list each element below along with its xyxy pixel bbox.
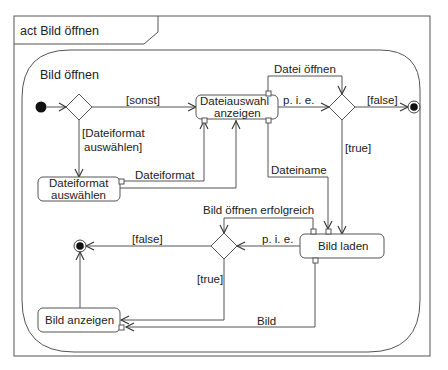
final-node-2-inner — [76, 242, 84, 250]
object-label-dateiformat: Dateiformat — [135, 169, 195, 181]
initial-node — [36, 102, 47, 113]
guard-true-2: [true] — [197, 273, 223, 285]
label-dateiname: Dateiname — [271, 164, 327, 176]
edge-datei-oeffnen — [268, 76, 342, 94]
input-pin-bild — [119, 325, 124, 330]
edge-true-2 — [121, 259, 224, 320]
output-pin-dateiformat — [119, 179, 124, 184]
label-pie-1: p. i. e. — [283, 94, 314, 106]
input-pin-dateiname — [326, 229, 331, 234]
decision-node-3 — [211, 233, 237, 259]
action-dateiformat-line1: Dateiformat — [49, 177, 109, 189]
guard-dateiformat-line2: auswählen] — [84, 141, 142, 153]
guard-false-1: [false] — [367, 94, 398, 106]
label-datei-oeffnen: Datei öffnen — [274, 63, 336, 75]
frame-title: act Bild öffnen — [20, 24, 99, 38]
guard-true-1: [true] — [345, 142, 371, 154]
decision-node-1 — [66, 94, 92, 120]
decision-node-2 — [329, 94, 355, 120]
label-bild-oeffnen-erfolgreich: Bild öffnen erfolgreich — [203, 204, 314, 216]
action-dateiformat-line2: auswählen — [51, 189, 106, 201]
activity-diagram: act Bild öffnen Bild öffnen [sonst] [Dat… — [0, 0, 448, 370]
activity-name: Bild öffnen — [40, 68, 99, 82]
output-pin-bild — [313, 258, 318, 263]
output-pin-dateiname — [266, 118, 271, 123]
output-pin-erfolgreich — [311, 229, 316, 234]
final-node-1-inner — [410, 103, 418, 111]
guard-false-2: [false] — [132, 233, 163, 245]
output-pin-datei-oeffnen — [266, 91, 271, 96]
action-dateiauswahl-line1: Dateiauswahl — [200, 95, 269, 107]
edge-bild-oeffnen-erfolgreich — [224, 218, 313, 233]
guard-dateiformat-line1: [Dateiformat — [82, 127, 145, 139]
label-pie-2: p. i. e. — [262, 233, 293, 245]
input-pin-dateiauswahl-1 — [202, 118, 207, 123]
action-bild-laden-label: Bild laden — [318, 240, 369, 252]
action-dateiauswahl-line2: anzeigen — [214, 107, 261, 119]
label-bild: Bild — [257, 315, 276, 327]
guard-sonst: [sonst] — [126, 94, 160, 106]
action-bild-anzeigen-label: Bild anzeigen — [45, 314, 114, 326]
